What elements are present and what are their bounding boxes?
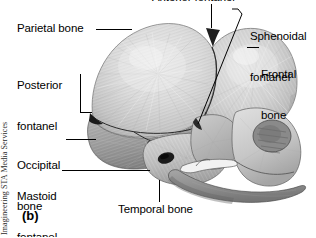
leader-parietal-bone xyxy=(96,29,132,30)
image-credit: Imagineering STA Media Services xyxy=(0,122,9,235)
fetal-skull-figure: Anterior fontanel Parietal bone Posterio… xyxy=(0,0,316,237)
leader-occipital-bone xyxy=(66,139,96,140)
label-posterior-fontanel-line1: Posterior xyxy=(17,79,62,93)
label-anterior-fontanel: Anterior fontanel xyxy=(152,0,235,4)
leader-anterior-fontanel xyxy=(211,4,212,28)
label-frontal-bone: Frontal bone xyxy=(261,41,296,149)
label-parietal-bone: Parietal bone xyxy=(17,22,83,35)
label-frontal-bone-line2: bone xyxy=(261,109,296,123)
label-posterior-fontanel-line2: fontanel xyxy=(17,120,62,134)
label-temporal-bone: Temporal bone xyxy=(118,203,193,216)
panel-letter: (b) xyxy=(22,208,39,223)
leader-temporal-bone xyxy=(159,180,160,202)
label-mastoid-fontanel: Mastoid fontanel xyxy=(17,163,57,237)
leader-posterior-fontanel-horizontal xyxy=(80,112,92,113)
label-mastoid-fontanel-line2: fontanel xyxy=(17,231,57,238)
leader-mastoid-fontanel xyxy=(62,170,150,171)
label-mastoid-fontanel-line1: Mastoid xyxy=(17,190,57,204)
label-frontal-bone-line1: Frontal xyxy=(261,68,296,82)
leader-posterior-fontanel-vertical xyxy=(80,74,81,112)
